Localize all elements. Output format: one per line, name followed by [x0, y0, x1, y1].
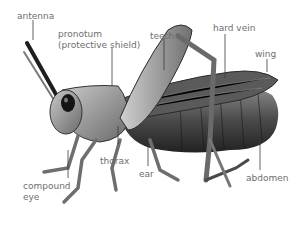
label-pronotum: pronotum: [58, 29, 102, 39]
label-wing: wing: [255, 49, 276, 59]
label-hard-vein: hard vein: [213, 23, 255, 33]
label-abdomen: abdomen: [246, 173, 288, 183]
grasshopper-diagram: antenna pronotum (protective shield) tee…: [0, 0, 301, 226]
label-pronotum-note: (protective shield): [58, 40, 140, 50]
label-antenna: antenna: [17, 11, 54, 21]
label-compound-eye: compound: [23, 181, 71, 191]
label-teeth: teeth: [150, 31, 174, 41]
antenna-shape: [24, 43, 58, 100]
label-compound-eye-2: eye: [23, 192, 39, 202]
label-ear: ear: [139, 169, 154, 179]
compound-eye-shape: [61, 94, 75, 112]
label-thorax: thorax: [100, 156, 129, 166]
